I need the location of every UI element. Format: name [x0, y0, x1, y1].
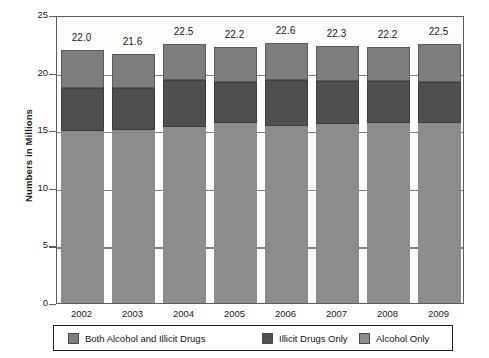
- y-axis-tick-label: 5: [26, 239, 48, 250]
- bar-value-label: 22.5: [409, 26, 469, 37]
- bar-segment: [112, 54, 155, 87]
- bar-value-label: 21.6: [103, 36, 163, 47]
- y-axis-tick-label: 0: [26, 297, 48, 308]
- bar-segment: [367, 81, 410, 124]
- bar-segment: [61, 131, 104, 303]
- bar-2007[interactable]: [316, 15, 359, 303]
- bar-2004[interactable]: [163, 15, 206, 303]
- bar-segment: [265, 80, 308, 126]
- legend-item[interactable]: Both Alcohol and Illicit Drugs: [68, 333, 205, 344]
- y-axis-tick-mark: [49, 131, 56, 132]
- legend-swatch-icon: [68, 333, 79, 344]
- bar-segment: [265, 126, 308, 303]
- plot-area: [56, 16, 464, 304]
- bar-segment: [163, 44, 206, 80]
- bar-segment: [418, 123, 461, 303]
- legend-label: Illicit Drugs Only: [279, 333, 348, 344]
- bar-segment: [214, 123, 257, 303]
- bar-segment: [214, 82, 257, 123]
- legend-swatch-icon: [262, 333, 273, 344]
- y-axis-tick-label: 10: [26, 182, 48, 193]
- bar-segment: [316, 81, 359, 125]
- y-axis-tick-label: 20: [26, 67, 48, 78]
- x-axis-tick-label: 2009: [409, 308, 469, 319]
- bar-segment: [61, 88, 104, 132]
- bar-segment: [367, 123, 410, 303]
- bar-segment: [265, 43, 308, 80]
- bar-segment: [418, 82, 461, 123]
- y-axis-tick-mark: [49, 16, 56, 17]
- y-axis-tick-mark: [49, 304, 56, 305]
- bar-2002[interactable]: [61, 15, 104, 303]
- legend-label: Alcohol Only: [376, 333, 429, 344]
- legend-item[interactable]: Alcohol Only: [359, 333, 429, 344]
- y-axis-tick-mark: [49, 74, 56, 75]
- bar-segment: [112, 130, 155, 303]
- y-axis-title: Numbers in Millions: [23, 66, 34, 246]
- bar-segment: [163, 127, 206, 303]
- bar-segment: [163, 80, 206, 127]
- bar-segment: [316, 124, 359, 303]
- y-axis-tick-label: 15: [26, 124, 48, 135]
- bar-segment: [367, 47, 410, 80]
- bar-2009[interactable]: [418, 15, 461, 303]
- bar-2006[interactable]: [265, 15, 308, 303]
- legend-item[interactable]: Illicit Drugs Only: [262, 333, 348, 344]
- y-axis-tick-label: 25: [26, 9, 48, 20]
- bar-segment: [214, 47, 257, 82]
- y-axis-tick-mark: [49, 246, 56, 247]
- bar-segment: [112, 88, 155, 131]
- bar-segment: [418, 44, 461, 82]
- bar-2005[interactable]: [214, 15, 257, 303]
- bar-segment: [61, 50, 104, 88]
- legend-swatch-icon: [359, 333, 370, 344]
- bar-2008[interactable]: [367, 15, 410, 303]
- stacked-bar-chart: Numbers in Millions 0510152025 200220032…: [0, 0, 489, 358]
- bar-segment: [316, 46, 359, 81]
- y-axis-tick-mark: [49, 189, 56, 190]
- plot-inner: [57, 17, 463, 303]
- bar-2003[interactable]: [112, 15, 155, 303]
- chart-legend: Both Alcohol and Illicit DrugsIllicit Dr…: [53, 325, 453, 351]
- legend-label: Both Alcohol and Illicit Drugs: [85, 333, 205, 344]
